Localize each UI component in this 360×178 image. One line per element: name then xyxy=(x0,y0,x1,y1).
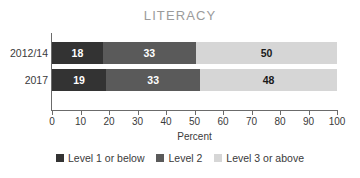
x-tick-label: 40 xyxy=(151,116,181,127)
bar-segment-level3: 48 xyxy=(200,69,337,91)
x-tick-mark xyxy=(52,111,53,115)
legend-label: Level 2 xyxy=(168,152,202,164)
legend-label: Level 1 or below xyxy=(68,152,144,164)
x-tick-label: 30 xyxy=(123,116,153,127)
literacy-stacked-bar-chart: LITERACY 2012/14 2017 18 33 50 19 33 48 … xyxy=(0,0,360,178)
x-tick-mark xyxy=(166,111,167,115)
x-tick-label: 50 xyxy=(180,116,210,127)
plot-area: 18 33 50 19 33 48 xyxy=(52,33,337,110)
bar-segment-level3: 50 xyxy=(196,42,337,64)
bar-segment-level1: 18 xyxy=(52,42,103,64)
legend-label: Level 3 or above xyxy=(226,152,304,164)
x-tick-mark xyxy=(195,111,196,115)
x-tick-mark xyxy=(280,111,281,115)
x-tick-label: 60 xyxy=(208,116,238,127)
x-tick-mark xyxy=(81,111,82,115)
category-label-2012-14: 2012/14 xyxy=(0,42,48,64)
x-tick-label: 90 xyxy=(294,116,324,127)
legend-swatch-icon xyxy=(156,154,164,162)
category-label-2017: 2017 xyxy=(0,69,48,91)
x-tick-mark xyxy=(337,111,338,115)
x-axis-title: Percent xyxy=(51,131,338,142)
x-tick-mark xyxy=(138,111,139,115)
x-tick-label: 100 xyxy=(322,116,352,127)
x-tick-label: 0 xyxy=(37,116,67,127)
x-tick-mark xyxy=(223,111,224,115)
legend-swatch-icon xyxy=(56,154,64,162)
bar-row: 18 33 50 xyxy=(52,42,337,64)
legend-swatch-icon xyxy=(214,154,222,162)
x-tick-mark xyxy=(109,111,110,115)
x-tick-label: 70 xyxy=(237,116,267,127)
x-tick-label: 10 xyxy=(66,116,96,127)
chart-title: LITERACY xyxy=(0,8,360,23)
chart-legend: Level 1 or belowLevel 2Level 3 or above xyxy=(0,152,360,164)
legend-item[interactable]: Level 2 xyxy=(156,152,202,164)
bar-segment-level2: 33 xyxy=(106,69,200,91)
bar-segment-level1: 19 xyxy=(52,69,106,91)
bar-row: 19 33 48 xyxy=(52,69,337,91)
x-tick-label: 80 xyxy=(265,116,295,127)
legend-item[interactable]: Level 1 or below xyxy=(56,152,144,164)
x-tick-mark xyxy=(309,111,310,115)
category-axis-labels: 2012/14 2017 xyxy=(0,33,48,111)
x-tick-mark xyxy=(252,111,253,115)
x-tick-label: 20 xyxy=(94,116,124,127)
legend-item[interactable]: Level 3 or above xyxy=(214,152,304,164)
bar-segment-level2: 33 xyxy=(103,42,196,64)
